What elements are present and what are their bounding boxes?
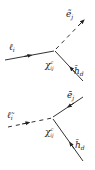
top-dashed-arrow-icon bbox=[78, 21, 83, 26]
bottom-down-arrow-icon bbox=[71, 144, 75, 149]
bottom-incoming-arrow-icon bbox=[22, 123, 28, 124]
top-up-label: ẽj bbox=[66, 9, 73, 21]
bottom-incoming-label: ℓ̃i bbox=[7, 110, 15, 121]
bottom-vertex-label: χcij bbox=[44, 126, 54, 139]
bottom-up-line bbox=[53, 97, 83, 117]
top-incoming-arrow-icon bbox=[24, 55, 30, 56]
bottom-up-arrow-icon bbox=[69, 103, 74, 106]
top-incoming-label: ℓi bbox=[9, 42, 15, 53]
top-diagram: ℓi ẽj h̄d χcij bbox=[5, 9, 84, 81]
top-vertex-label: χcij bbox=[44, 59, 54, 72]
bottom-incoming-line bbox=[8, 118, 52, 127]
bottom-up-label: ēj bbox=[67, 90, 74, 102]
feynman-diagrams: ℓi ẽj h̄d χcij ℓ̃i ēj h̄d χcij bbox=[0, 0, 95, 170]
top-down-label: h̄d bbox=[74, 65, 84, 77]
bottom-diagram: ℓ̃i ēj h̄d χcij bbox=[7, 90, 85, 161]
bottom-down-label: h̄d bbox=[75, 139, 85, 151]
